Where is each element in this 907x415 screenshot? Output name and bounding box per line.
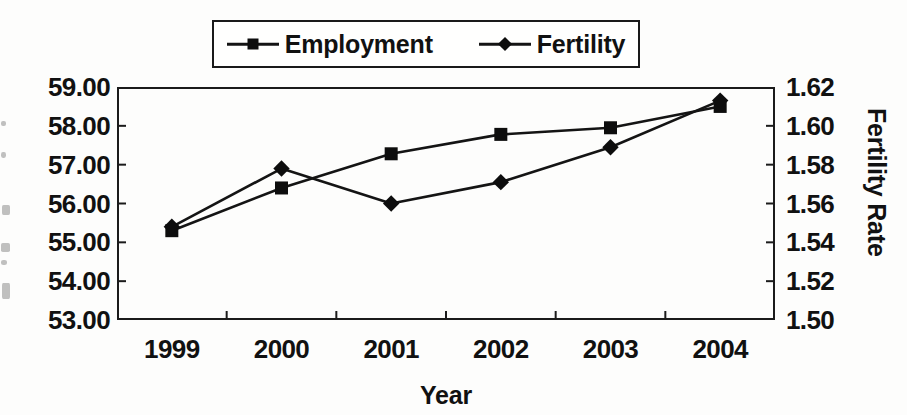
legend-item-employment: Employment — [227, 30, 433, 59]
series-line-fertility — [172, 101, 720, 227]
data-point-marker-square — [275, 181, 288, 194]
y-axis-left-tick-label: 55.00 — [6, 229, 110, 255]
diamond-marker-icon — [498, 37, 512, 51]
legend-line-sample-fertility — [479, 36, 531, 52]
series-line-employment — [172, 106, 720, 230]
plot-data-layer — [117, 87, 775, 320]
x-axis-tick-label: 2002 — [473, 334, 528, 365]
y-axis-left-tick-label: 58.00 — [6, 113, 110, 139]
data-point-marker-square — [494, 128, 507, 141]
y-axis-left-tick-label: 54.00 — [6, 268, 110, 294]
legend-line-sample-employment — [227, 36, 279, 52]
x-axis-tick-label: 2004 — [692, 334, 747, 365]
y-axis-right-tick-label: 1.62 — [786, 74, 890, 100]
y-axis-right-tick-label: 1.52 — [786, 268, 890, 294]
y-axis-right-title: Fertility Rate — [862, 108, 891, 257]
y-axis-left-tick-label: 56.00 — [6, 191, 110, 217]
legend-label-fertility: Fertility — [537, 30, 626, 59]
chart-legend: Employment Fertility — [212, 20, 640, 68]
data-point-marker-square — [604, 121, 617, 134]
data-point-marker-diamond — [383, 195, 399, 211]
data-point-marker-diamond — [493, 174, 509, 190]
y-axis-left-tick-label: 53.00 — [6, 307, 110, 333]
legend-label-employment: Employment — [285, 30, 433, 59]
chart-figure: Employment Fertility 59.0058.0057.0056.0… — [0, 0, 907, 415]
x-axis-tick-label: 2003 — [583, 334, 638, 365]
y-axis-left-tick-label: 57.00 — [6, 152, 110, 178]
data-point-marker-diamond — [602, 139, 618, 155]
data-point-marker-diamond — [273, 160, 289, 176]
x-axis-title: Year — [420, 381, 472, 410]
y-axis-left: 59.0058.0057.0056.0055.0054.0053.00 — [0, 87, 110, 320]
legend-item-fertility: Fertility — [479, 30, 626, 59]
x-axis-tick-label: 2001 — [363, 334, 418, 365]
x-axis-tick-label: 2000 — [254, 334, 309, 365]
square-marker-icon — [247, 39, 258, 50]
data-point-marker-square — [385, 147, 398, 160]
x-axis-tick-label: 1999 — [144, 334, 199, 365]
y-axis-left-tick-label: 59.00 — [6, 74, 110, 100]
y-axis-right-tick-label: 1.50 — [786, 307, 890, 333]
